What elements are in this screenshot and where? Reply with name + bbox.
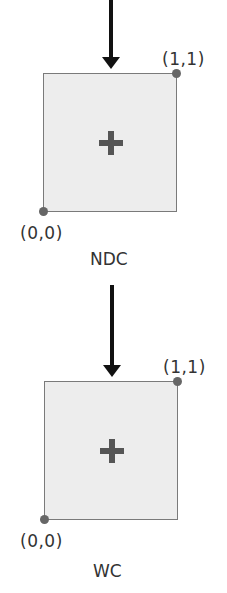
ndc-bottom-left-dot	[39, 207, 48, 216]
ndc-box	[43, 73, 177, 212]
wc-bottom-left-dot	[40, 515, 49, 524]
wc-label: WC	[93, 561, 122, 581]
wc-top-right-dot	[173, 377, 182, 386]
wc-bottom-left-coord: (0,0)	[20, 531, 63, 551]
ndc-top-right-dot	[172, 69, 181, 78]
ndc-label: NDC	[90, 249, 128, 269]
arrow-shaft	[109, 0, 113, 58]
ndc-bottom-left-coord: (0,0)	[20, 223, 63, 243]
arrow-head	[102, 57, 120, 69]
arrow-head	[103, 365, 121, 377]
ndc-top-right-coord: (1,1)	[162, 49, 205, 69]
wc-box	[44, 381, 178, 520]
wc-top-right-coord: (1,1)	[163, 357, 206, 377]
arrow-shaft	[110, 285, 114, 366]
